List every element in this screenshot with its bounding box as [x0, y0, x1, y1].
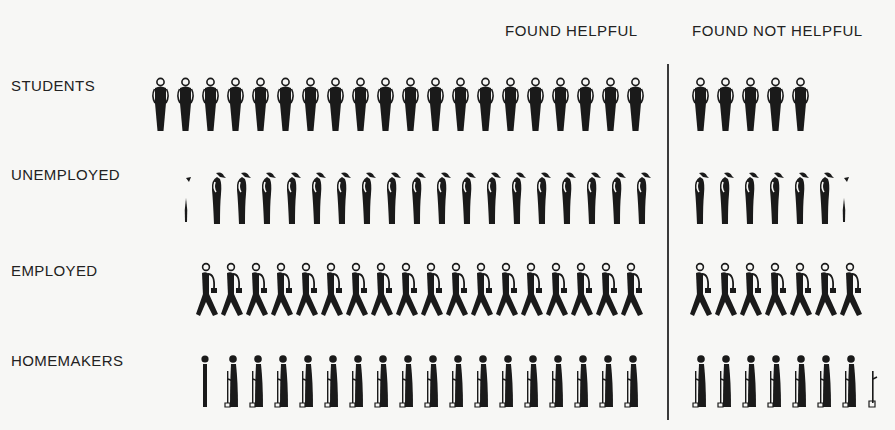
- stooped-man-figure-icon: [763, 170, 788, 226]
- student-figure-icon: [763, 77, 788, 133]
- woman-with-broom-figure-icon: [270, 353, 295, 409]
- stooped-man-figure-icon: [305, 170, 330, 226]
- stooped-man-figure-icon: [430, 170, 455, 226]
- student-figure-icon: [373, 77, 398, 133]
- row-label-employed: EMPLOYED: [11, 262, 98, 279]
- walking-man-figure-icon: [469, 262, 494, 318]
- student-figure-icon: [248, 77, 273, 133]
- student-figure-icon: [448, 77, 473, 133]
- stooped-man-figure-icon: [380, 170, 405, 226]
- walking-man-figure-icon: [269, 262, 294, 318]
- stooped-man-figure-icon: [480, 170, 505, 226]
- stooped-man-figure-icon: [505, 170, 530, 226]
- employed-not-helpful-figures: [688, 262, 863, 318]
- student-figure-icon: [323, 77, 348, 133]
- woman-with-broom-figure-icon: [688, 353, 713, 409]
- student-figure-icon: [473, 77, 498, 133]
- unemployed-helpful-figures: [180, 170, 655, 226]
- stooped-man-figure-icon: [255, 170, 280, 226]
- stooped-man-figure-icon: [605, 170, 630, 226]
- student-figure-icon: [273, 77, 298, 133]
- walking-man-figure-icon: [569, 262, 594, 318]
- walking-man-figure-icon: [688, 262, 713, 318]
- woman-with-broom-figure-icon: [320, 353, 345, 409]
- student-figure-icon: [598, 77, 623, 133]
- student-figure-icon: [298, 77, 323, 133]
- stooped-man-figure-icon: [713, 170, 738, 226]
- woman-with-broom-figure-icon: [420, 353, 445, 409]
- woman-with-broom-figure-icon: [520, 353, 545, 409]
- walking-man-figure-icon: [244, 262, 269, 318]
- column-divider: [667, 64, 669, 420]
- walking-man-figure-icon: [713, 262, 738, 318]
- student-figure-icon: [738, 77, 763, 133]
- partial-woman-with-broom-figure-icon: [863, 353, 888, 409]
- woman-with-broom-figure-icon: [620, 353, 645, 409]
- walking-man-figure-icon: [444, 262, 469, 318]
- stooped-man-figure-icon: [205, 170, 230, 226]
- walking-man-figure-icon: [294, 262, 319, 318]
- woman-with-broom-figure-icon: [445, 353, 470, 409]
- student-figure-icon: [148, 77, 173, 133]
- student-figure-icon: [423, 77, 448, 133]
- stooped-man-figure-icon: [355, 170, 380, 226]
- woman-with-broom-figure-icon: [470, 353, 495, 409]
- student-figure-icon: [623, 77, 648, 133]
- partial-woman-with-broom-figure-icon: [195, 353, 220, 409]
- walking-man-figure-icon: [838, 262, 863, 318]
- walking-man-figure-icon: [519, 262, 544, 318]
- woman-with-broom-figure-icon: [345, 353, 370, 409]
- woman-with-broom-figure-icon: [295, 353, 320, 409]
- students-not-helpful-figures: [688, 77, 813, 133]
- row-label-students: STUDENTS: [11, 77, 95, 94]
- woman-with-broom-figure-icon: [570, 353, 595, 409]
- stooped-man-figure-icon: [230, 170, 255, 226]
- woman-with-broom-figure-icon: [788, 353, 813, 409]
- employed-helpful-figures: [194, 262, 644, 318]
- students-helpful-figures: [148, 77, 648, 133]
- walking-man-figure-icon: [319, 262, 344, 318]
- unemployed-not-helpful-figures: [688, 170, 863, 226]
- woman-with-broom-figure-icon: [763, 353, 788, 409]
- partial-stooped-man-figure-icon: [838, 170, 863, 226]
- stooped-man-figure-icon: [738, 170, 763, 226]
- stooped-man-figure-icon: [280, 170, 305, 226]
- woman-with-broom-figure-icon: [395, 353, 420, 409]
- stooped-man-figure-icon: [688, 170, 713, 226]
- woman-with-broom-figure-icon: [370, 353, 395, 409]
- walking-man-figure-icon: [344, 262, 369, 318]
- student-figure-icon: [498, 77, 523, 133]
- stooped-man-figure-icon: [788, 170, 813, 226]
- stooped-man-figure-icon: [630, 170, 655, 226]
- student-figure-icon: [348, 77, 373, 133]
- student-figure-icon: [573, 77, 598, 133]
- stooped-man-figure-icon: [530, 170, 555, 226]
- walking-man-figure-icon: [738, 262, 763, 318]
- walking-man-figure-icon: [813, 262, 838, 318]
- walking-man-figure-icon: [419, 262, 444, 318]
- woman-with-broom-figure-icon: [545, 353, 570, 409]
- woman-with-broom-figure-icon: [813, 353, 838, 409]
- woman-with-broom-figure-icon: [713, 353, 738, 409]
- student-figure-icon: [198, 77, 223, 133]
- woman-with-broom-figure-icon: [220, 353, 245, 409]
- student-figure-icon: [548, 77, 573, 133]
- walking-man-figure-icon: [763, 262, 788, 318]
- walking-man-figure-icon: [494, 262, 519, 318]
- walking-man-figure-icon: [594, 262, 619, 318]
- stooped-man-figure-icon: [813, 170, 838, 226]
- woman-with-broom-figure-icon: [838, 353, 863, 409]
- woman-with-broom-figure-icon: [738, 353, 763, 409]
- partial-stooped-man-figure-icon: [180, 170, 205, 226]
- woman-with-broom-figure-icon: [595, 353, 620, 409]
- student-figure-icon: [223, 77, 248, 133]
- student-figure-icon: [713, 77, 738, 133]
- homemakers-helpful-figures: [195, 353, 645, 409]
- student-figure-icon: [788, 77, 813, 133]
- stooped-man-figure-icon: [330, 170, 355, 226]
- row-label-homemakers: HOMEMAKERS: [11, 352, 123, 369]
- walking-man-figure-icon: [369, 262, 394, 318]
- walking-man-figure-icon: [394, 262, 419, 318]
- stooped-man-figure-icon: [555, 170, 580, 226]
- walking-man-figure-icon: [194, 262, 219, 318]
